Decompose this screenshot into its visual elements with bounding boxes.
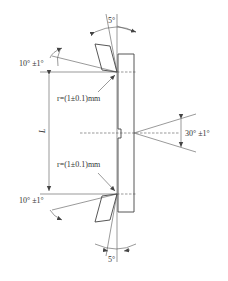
bottom-rake-angle-arc <box>50 210 62 220</box>
top-radius-leader <box>98 75 115 92</box>
top-clearance-angle-arc <box>95 26 136 32</box>
length-dimension-label: L <box>38 128 47 134</box>
bottom-rake-angle-label: 10° ±1° <box>19 196 44 205</box>
bottom-clearance-angle-arc <box>95 244 136 251</box>
notch-angle-label: 30° ±1° <box>185 129 210 138</box>
top-radius-label: r=(1±0.1)mm <box>57 94 101 103</box>
bottom-clearance-angle-label: 5° <box>108 255 115 264</box>
bottom-radius-label: r=(1±0.1)mm <box>57 160 101 169</box>
bottom-radius-leader <box>98 173 115 191</box>
bottom-cutting-tool <box>52 194 117 256</box>
technical-diagram: 5° 5° 10° ±1° 10° ±1° r=(1±0.1)mm r=(1±0… <box>0 0 228 281</box>
top-rake-angle-label: 10° ±1° <box>19 59 44 68</box>
top-clearance-angle-label: 5° <box>108 16 115 25</box>
